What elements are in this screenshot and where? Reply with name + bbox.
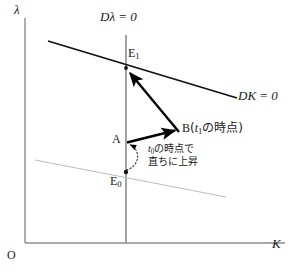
jump-annotation: t0の時点で 直ちに上昇 bbox=[148, 143, 198, 167]
trajectory-b-to-e1-arrow bbox=[130, 73, 179, 132]
e0-subscript: 0 bbox=[117, 179, 121, 189]
point-e0-dot bbox=[124, 170, 128, 174]
trajectory-a-to-b-arrow bbox=[127, 131, 175, 143]
annotation-line1-rest: の時点で bbox=[154, 143, 194, 154]
jump-annotation-line2: 直ちに上昇 bbox=[148, 156, 198, 168]
dlambda-label-eq: = 0 bbox=[115, 9, 137, 24]
b-time-text: の時点 bbox=[202, 121, 238, 135]
phase-diagram-figure: λ K O Dλ = 0 DK = 0 E1 B(t1の時点) A E0 t0の… bbox=[0, 0, 299, 273]
dk-label-eq: = 0 bbox=[256, 88, 278, 103]
point-e1-dot bbox=[124, 66, 128, 70]
y-axis-label: λ bbox=[14, 3, 20, 18]
dlambda-label-D: D bbox=[100, 9, 109, 24]
point-label-e1: E1 bbox=[128, 47, 140, 62]
point-label-a: A bbox=[112, 133, 121, 147]
b-letter: B bbox=[182, 121, 190, 135]
jump-e0-to-a-dotted-arrow bbox=[127, 145, 138, 170]
origin-label: O bbox=[7, 249, 16, 263]
jump-annotation-line1: t0の時点で bbox=[148, 143, 198, 156]
e1-subscript: 1 bbox=[135, 51, 139, 61]
dk-zero-label: DK = 0 bbox=[238, 89, 278, 104]
point-label-b: B(t1の時点) bbox=[182, 122, 243, 137]
diagram-canvas bbox=[0, 0, 299, 273]
dk-label-D: DK bbox=[238, 88, 256, 103]
axes-group bbox=[25, 18, 285, 243]
b-paren-close: ) bbox=[238, 121, 243, 135]
point-label-e0: E0 bbox=[110, 175, 122, 190]
dlambda-zero-label: Dλ = 0 bbox=[100, 10, 137, 25]
x-axis-label: K bbox=[272, 237, 281, 252]
